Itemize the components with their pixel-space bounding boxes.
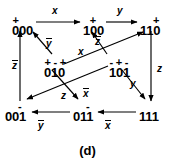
node-111-label: 111 <box>139 110 159 123</box>
figure-caption: (d) <box>0 143 175 158</box>
node-101: -+- 101 <box>109 60 131 79</box>
node-110-label: 110 <box>140 24 162 37</box>
edge-label-text: z <box>61 90 66 101</box>
edge-label-x-000-100: x <box>52 6 58 16</box>
node-110: --+ 110 <box>140 18 162 37</box>
node-001: --- 001 <box>5 104 26 123</box>
edge-label-zbar-101-100: z <box>95 36 100 47</box>
edge-label-text: x <box>83 88 89 99</box>
edge-label-xbar-111-011: x <box>105 120 111 131</box>
node-011-label: 011 <box>73 110 93 123</box>
edge-label-text: y <box>117 5 123 16</box>
edge-label-text: y <box>38 120 44 131</box>
node-111: --- 111 <box>139 104 159 123</box>
edge-label-text: y <box>130 78 136 89</box>
edge-label-x-010-110: x <box>78 47 84 57</box>
edge-label-y-100-110: y <box>117 6 123 16</box>
edge-label-zbar-001-000: z <box>12 60 17 71</box>
node-101-label: 101 <box>109 66 131 79</box>
edge-label-text: x <box>52 5 58 16</box>
node-010: +-+ 010 <box>44 60 69 79</box>
edge-label-text: x <box>105 120 111 131</box>
edge-label-z-110-111: z <box>157 64 162 74</box>
node-011: --- 011 <box>73 104 93 123</box>
edge-label-ybar-011-001: y <box>38 120 44 131</box>
edge-label-ybar-010-000: y <box>46 38 52 49</box>
edge-label-text: y <box>46 38 52 49</box>
node-001-label: 001 <box>5 110 26 123</box>
node-000-label: 000 <box>12 24 34 37</box>
edge-label-y-101-111: y <box>130 79 136 89</box>
edge-label-text: z <box>12 60 17 71</box>
node-100: -+- 100 <box>83 18 105 37</box>
node-000: +-- 000 <box>12 18 34 37</box>
edge-label-z-010-011: z <box>61 91 66 101</box>
edge-label-text: z <box>95 36 100 47</box>
edge-label-xbar-101-001: x <box>83 88 89 99</box>
edge-label-text: x <box>78 46 84 57</box>
edge-label-text: z <box>157 63 162 74</box>
figure-container: +-- 000 -+- 100 --+ 110 +-+ 010 -+- 101 … <box>0 0 175 167</box>
